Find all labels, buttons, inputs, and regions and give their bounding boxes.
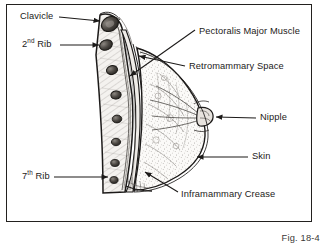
label-pectoralis-major-muscle: Pectoralis Major Muscle: [199, 27, 300, 36]
label-second-rib-ordinal: nd: [27, 37, 34, 44]
label-retromammary-space: Retromammary Space: [189, 62, 284, 71]
label-second-rib: 2nd Rib: [22, 40, 51, 49]
figure-caption: Fig. 18-4: [282, 233, 321, 243]
label-nipple: Nipple: [260, 113, 287, 122]
label-seventh-rib: 7th Rib: [22, 172, 50, 181]
label-inframammary-crease: Inframammary Crease: [181, 190, 275, 199]
label-second-rib-word: Rib: [35, 39, 52, 49]
label-clavicle: Clavicle: [20, 12, 53, 21]
label-seventh-rib-word: Rib: [33, 171, 50, 181]
label-skin: Skin: [252, 152, 271, 161]
